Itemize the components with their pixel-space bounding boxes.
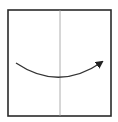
fold-diagram: [0, 0, 118, 122]
paper-square: [8, 10, 111, 116]
